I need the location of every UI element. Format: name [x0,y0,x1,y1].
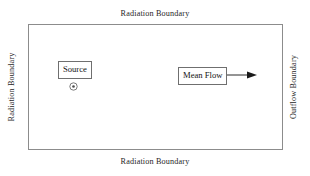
mean-flow-arrow-icon [227,70,259,80]
source-point-icon [69,82,78,91]
computational-domain-rectangle [28,24,283,150]
domain-diagram: Radiation Boundary Radiation Boundary Ra… [0,0,310,176]
mean-flow-label: Mean Flow [178,67,227,85]
boundary-label-bottom: Radiation Boundary [0,158,310,166]
boundary-label-right: Outflow Boundary [290,55,298,119]
boundary-label-left: Radiation Boundary [8,53,16,122]
boundary-label-top: Radiation Boundary [0,10,310,18]
source-label: Source [58,61,92,79]
